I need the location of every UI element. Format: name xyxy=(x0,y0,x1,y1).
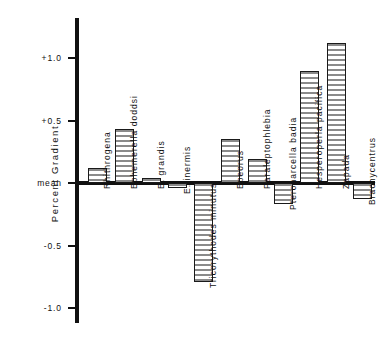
y-axis-title: Percent Gradient xyxy=(49,84,60,264)
y-axis-tick-label: +1.0 xyxy=(42,53,62,63)
bar-label: Tricorythodes minutus xyxy=(209,182,218,287)
y-axis-tick-mark xyxy=(68,307,76,309)
bar-label: E. grandis xyxy=(157,140,166,189)
bar-label: Hesperoperla pacifica xyxy=(315,85,324,189)
y-axis-tick-label: -1.0 xyxy=(44,303,62,313)
bar-label: E. inermis xyxy=(183,146,192,194)
bar-label: Ephemerella doddsi xyxy=(130,95,139,189)
y-axis-tick-label: +0.5 xyxy=(42,116,62,126)
bar-label: Paraleptophlebia xyxy=(263,108,272,189)
y-axis-tick-mark xyxy=(68,57,76,59)
bar-label: Rhithrogena xyxy=(103,131,112,189)
y-axis-tick-mark xyxy=(68,182,76,184)
y-axis-tick-label: mean xyxy=(37,178,62,188)
percent-gradient-bar-chart: Percent Gradient +1.0+0.5mean-0.5-1.0 Rh… xyxy=(0,0,388,339)
y-axis-tick-mark xyxy=(68,120,76,122)
bar-label: Brachycentrus xyxy=(368,137,377,205)
y-axis-tick-label: -0.5 xyxy=(44,241,62,251)
y-axis-line xyxy=(75,18,79,323)
bar-label: Zapada xyxy=(342,154,351,189)
bar-label: Epeorus xyxy=(236,150,245,189)
bar-label: Pteronarcella badia xyxy=(289,117,298,210)
y-axis-tick-mark xyxy=(68,245,76,247)
